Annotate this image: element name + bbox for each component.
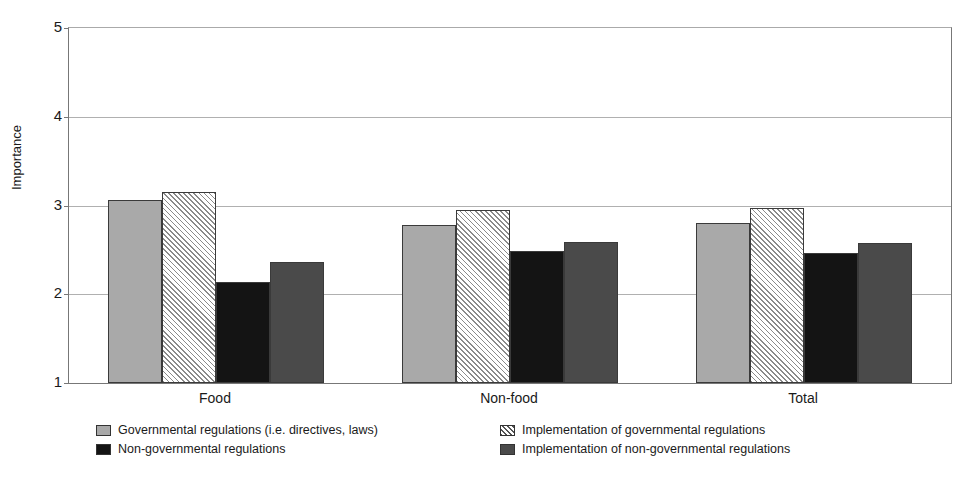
bar [162,192,216,383]
y-axis-tick-label: 4 [40,108,62,123]
bar [402,225,456,383]
legend-swatch-icon [500,444,515,455]
y-axis-tick-label: 3 [40,197,62,212]
bar [858,243,912,383]
y-axis-title: Importance [9,98,24,218]
y-axis-tick-label: 2 [40,285,62,300]
y-axis-tick [64,383,69,384]
legend-item-label: Governmental regulations (i.e. directive… [118,424,378,437]
bars-group [69,28,951,383]
bar [804,253,858,383]
bar [108,200,162,383]
legend-item-label: Non-governmental regulations [118,443,285,456]
legend-item: Implementation of non-governmental regul… [500,440,790,459]
y-axis-tick-labels: 12345 [36,0,62,484]
legend-item: Non-governmental regulations [96,440,378,459]
bar [216,282,270,383]
legend-item-label: Implementation of non-governmental regul… [522,443,790,456]
legend-item-label: Implementation of governmental regulatio… [522,424,765,437]
bar [564,242,618,383]
bar [456,210,510,383]
bar [750,208,804,383]
legend-column-left: Governmental regulations (i.e. directive… [96,421,378,459]
x-axis-category-label: Food [135,390,295,406]
x-axis-category-label: Non-food [429,390,589,406]
bar-chart: Importance 12345 FoodNon-foodTotal Gover… [0,0,973,484]
bar [510,251,564,383]
legend-swatch-icon [96,425,111,436]
legend-swatch-icon [500,425,515,436]
y-axis-tick-label: 5 [40,19,62,34]
legend-column-right: Implementation of governmental regulatio… [500,421,790,459]
y-axis-tick-label: 1 [40,374,62,389]
plot-area [68,27,952,384]
legend-item: Governmental regulations (i.e. directive… [96,421,378,440]
legend-swatch-icon [96,444,111,455]
bar [696,223,750,383]
x-axis-category-label: Total [723,390,883,406]
bar [270,262,324,383]
legend-item: Implementation of governmental regulatio… [500,421,790,440]
